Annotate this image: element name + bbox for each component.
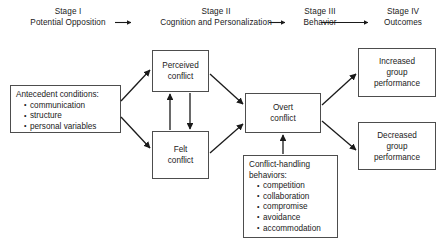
perceived-conflict-label: Perceived conflict [162,60,198,82]
list-item: competition [257,181,332,192]
stage-number: Stage II [136,6,296,17]
arrow-antecedent-to-perceived [121,70,150,101]
arrow-perceived-to-overt [210,74,243,104]
perceived-conflict-box: Perceived conflict [152,50,209,92]
felt-conflict-box: Felt conflict [152,131,209,179]
list-item: compromise [257,202,332,213]
stage-name: Outcomes [372,17,434,28]
conflict-handling-behaviors-box: Conflict-handling behaviors: competition… [243,155,338,238]
stage-header-3: Stage III Behavior [289,6,351,28]
stage-number: Stage III [289,6,351,17]
stage-name: Potential Opposition [8,17,128,28]
stage-header-4: Stage IV Outcomes [372,6,434,28]
list-item: collaboration [257,192,332,203]
stage-name: Behavior [289,17,351,28]
list-item: communication [24,101,115,112]
stage-header-2: Stage II Cognition and Personalization [136,6,296,28]
list-item: personal variables [24,122,115,133]
stage-number: Stage I [8,6,128,17]
stage-number: Stage IV [372,6,434,17]
handling-list: competition collaboration compromise avo… [249,181,332,234]
conflict-process-diagram: Stage I Potential Opposition Stage II Co… [0,0,440,248]
list-item: accommodation [257,224,332,235]
stage-header-1: Stage I Potential Opposition [8,6,128,28]
list-item: avoidance [257,213,332,224]
antecedent-conditions-box: Antecedent conditions: communication str… [10,85,121,133]
handling-heading-line1: Conflict-handling [249,160,332,171]
overt-conflict-label: Overt conflict [270,102,295,124]
arrow-felt-to-overt [210,124,243,153]
arrow-overt-to-increased [322,74,356,105]
decreased-performance-label: Decreased group performance [374,130,420,163]
antecedent-heading: Antecedent conditions: [16,90,115,101]
felt-conflict-label: Felt conflict [168,144,193,166]
handling-heading-line2: behaviors: [249,171,332,182]
overt-conflict-box: Overt conflict [245,93,321,133]
decreased-group-performance-box: Decreased group performance [358,122,436,170]
antecedent-list: communication structure personal variabl… [16,101,115,133]
increased-group-performance-box: Increased group performance [358,48,436,97]
arrow-antecedent-to-felt [121,117,150,148]
arrow-overt-to-decreased [322,121,356,150]
list-item: structure [24,111,115,122]
increased-performance-label: Increased group performance [374,56,420,89]
stage-name: Cognition and Personalization [136,17,296,28]
